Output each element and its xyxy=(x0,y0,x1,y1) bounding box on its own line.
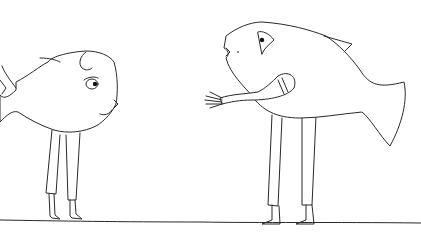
right-fish-body xyxy=(224,22,405,146)
right-fish-person xyxy=(205,22,405,224)
left-fish-body xyxy=(0,51,117,132)
right-hand xyxy=(205,92,222,108)
left-fish-person xyxy=(0,51,118,219)
drawing-canvas xyxy=(0,0,421,237)
ground-line xyxy=(0,220,421,223)
